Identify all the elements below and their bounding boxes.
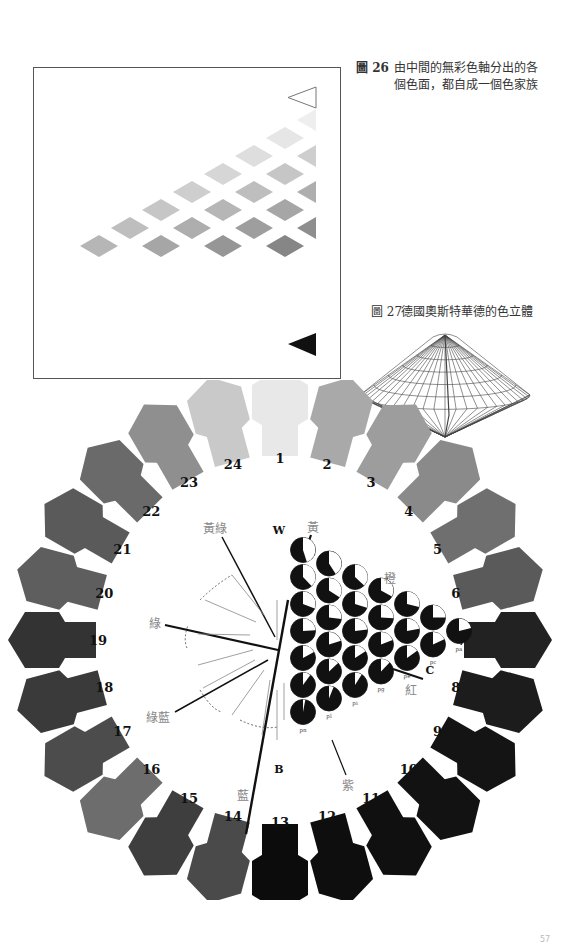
hue-number-label: 8 bbox=[451, 680, 460, 695]
gray-diamond-swatch bbox=[173, 181, 211, 203]
hue-number-label: 23 bbox=[180, 475, 198, 490]
gray-diamond-swatch bbox=[111, 217, 149, 239]
hue-number-label: 1 bbox=[275, 451, 284, 466]
figure-26-diamond-triangle bbox=[33, 67, 341, 379]
hue-number-label: 4 bbox=[404, 504, 413, 519]
hue-label-orange: 橙 bbox=[384, 571, 396, 586]
figure-27-caption: 圖 27德國奧斯特華德的色立體 bbox=[371, 304, 533, 321]
color-sample-pi: pi bbox=[343, 673, 368, 707]
gray-diamond-swatch bbox=[297, 217, 316, 239]
sample-code-label: pl bbox=[326, 713, 332, 720]
hue-label-blue: 藍 bbox=[237, 789, 249, 803]
hue-number-label: 11 bbox=[362, 791, 380, 806]
gray-diamond-swatch bbox=[235, 181, 273, 203]
hue-number-label: 21 bbox=[113, 542, 131, 557]
gray-diamond-swatch bbox=[297, 109, 316, 131]
hue-number-label: 20 bbox=[95, 586, 113, 601]
hue-number-label: 10 bbox=[400, 762, 418, 777]
hue-swatch-8 bbox=[450, 661, 549, 738]
hue-swatch-19 bbox=[8, 612, 96, 668]
axis-label-black: B bbox=[274, 763, 283, 776]
gray-diamond-swatch bbox=[266, 127, 304, 149]
hue-number-label: 9 bbox=[433, 724, 442, 739]
gray-diamond-swatch bbox=[266, 199, 304, 221]
figure-27-caption-text: 德國奧斯特華德的色立體 bbox=[401, 305, 533, 319]
solid-triangle-icon bbox=[288, 333, 316, 356]
color-sample-pg: pg bbox=[369, 659, 394, 693]
sample-code-label: pn bbox=[299, 727, 307, 734]
gray-diamond-swatch bbox=[297, 145, 316, 167]
color-sample-pe: pe bbox=[395, 646, 420, 680]
gray-diamond-swatch bbox=[235, 217, 273, 239]
hue-label-yellow: 黃 bbox=[307, 521, 319, 535]
hue-swatch-6 bbox=[450, 543, 549, 620]
gray-diamond-swatch bbox=[235, 145, 273, 167]
gray-diamond-swatch bbox=[173, 217, 211, 239]
figure-26-caption: 圖 26由中間的無彩色軸分出的各 個色面，都自成一個色家族 bbox=[356, 60, 538, 94]
hue-label-green-blue: 綠藍 bbox=[146, 711, 170, 725]
hue-number-label: 19 bbox=[89, 633, 107, 648]
hue-number-label: 6 bbox=[451, 586, 460, 601]
hue-label-green: 綠 bbox=[149, 617, 161, 631]
gray-diamond-swatch bbox=[204, 235, 242, 257]
hue-number-label: 3 bbox=[366, 475, 375, 490]
gray-diamond-swatch bbox=[266, 235, 304, 257]
hue-number-label: 18 bbox=[95, 680, 113, 695]
figure-26-number: 圖 26 bbox=[356, 60, 394, 77]
hue-number-label: 17 bbox=[113, 724, 131, 739]
color-sample-pn: pn bbox=[291, 700, 316, 734]
sample-code-label: pa bbox=[456, 646, 464, 653]
diamond-grid bbox=[34, 68, 341, 379]
hue-number-label: 2 bbox=[323, 457, 332, 472]
hue-number-label: 5 bbox=[433, 542, 442, 557]
hue-label-red: 紅 bbox=[405, 684, 417, 698]
axis-label-white: W bbox=[272, 524, 286, 537]
hue-swatch-7 bbox=[464, 612, 552, 668]
gray-diamond-swatch bbox=[204, 163, 242, 185]
hue-number-label: 14 bbox=[224, 809, 242, 824]
sample-code-label: pi bbox=[352, 700, 358, 707]
ostwald-hue-circle: 123456789101112131415161718192021222324 … bbox=[0, 380, 561, 900]
hue-number-label: 12 bbox=[318, 809, 336, 824]
gray-diamond-swatch bbox=[297, 181, 316, 203]
hue-number-label: 22 bbox=[142, 504, 160, 519]
figure-26-caption-line2: 個色面，都自成一個色家族 bbox=[394, 78, 538, 92]
axis-label-color: C bbox=[426, 664, 435, 677]
hue-number-label: 13 bbox=[271, 815, 289, 830]
hue-label-purple: 紫 bbox=[342, 779, 354, 793]
color-sample-pc: pc bbox=[421, 632, 446, 666]
figure-27-number: 圖 27 bbox=[371, 304, 401, 321]
sample-code-label: pe bbox=[404, 673, 411, 680]
sample-code-label: pg bbox=[377, 686, 385, 693]
gray-diamond-swatch bbox=[142, 235, 180, 257]
hue-swatch-20 bbox=[10, 543, 109, 620]
hue-number-label: 24 bbox=[224, 457, 242, 472]
color-sample-pl: pl bbox=[317, 686, 342, 720]
hue-label-yellow-green: 黃綠 bbox=[203, 522, 227, 536]
figure-26-caption-line1: 由中間的無彩色軸分出的各 bbox=[394, 61, 538, 75]
hollow-triangle-icon bbox=[288, 87, 316, 108]
hue-number-label: 16 bbox=[142, 762, 160, 777]
hue-swatch-18 bbox=[10, 661, 109, 738]
page-number: 57 bbox=[540, 935, 550, 944]
gray-diamond-swatch bbox=[142, 199, 180, 221]
hue-number-label: 15 bbox=[180, 791, 198, 806]
gray-axis-line bbox=[246, 600, 288, 834]
hue-swatch-13 bbox=[252, 824, 308, 900]
gray-diamond-swatch bbox=[204, 199, 242, 221]
gray-diamond-swatch bbox=[266, 163, 304, 185]
hue-swatch-1 bbox=[252, 380, 308, 456]
gray-diamond-swatch bbox=[80, 235, 118, 257]
